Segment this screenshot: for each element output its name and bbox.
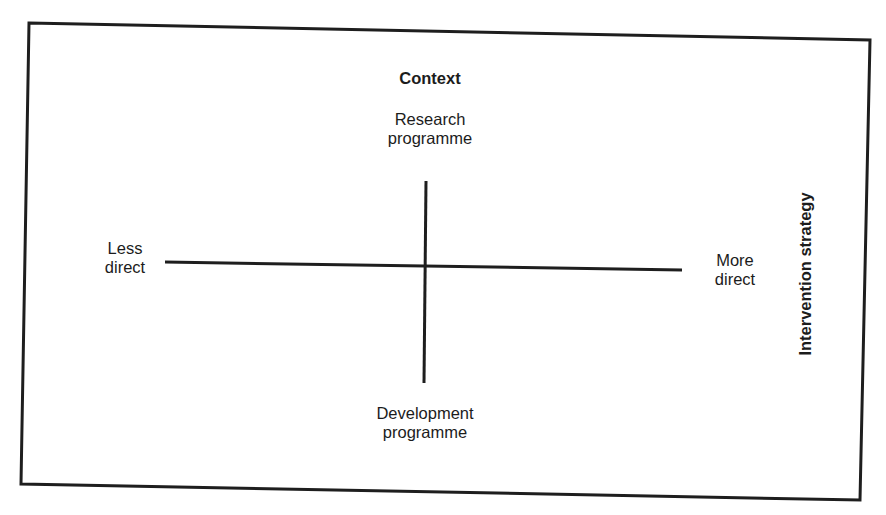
intervention-strategy-title: Intervention strategy <box>796 174 816 374</box>
more-line1: More <box>680 251 790 270</box>
development-programme-label: Development programme <box>340 404 510 442</box>
more-line2: direct <box>680 270 790 289</box>
development-line2: programme <box>340 423 510 442</box>
vertical-axis-line <box>424 181 426 383</box>
less-line1: Less <box>70 239 180 258</box>
research-line1: Research <box>355 110 505 129</box>
research-line2: programme <box>355 129 505 148</box>
research-programme-label: Research programme <box>355 110 505 148</box>
development-line1: Development <box>340 404 510 423</box>
horizontal-axis-line <box>165 262 682 270</box>
more-direct-label: More direct <box>680 251 790 289</box>
context-title: Context <box>370 69 490 88</box>
less-direct-label: Less direct <box>70 239 180 277</box>
less-line2: direct <box>70 258 180 277</box>
